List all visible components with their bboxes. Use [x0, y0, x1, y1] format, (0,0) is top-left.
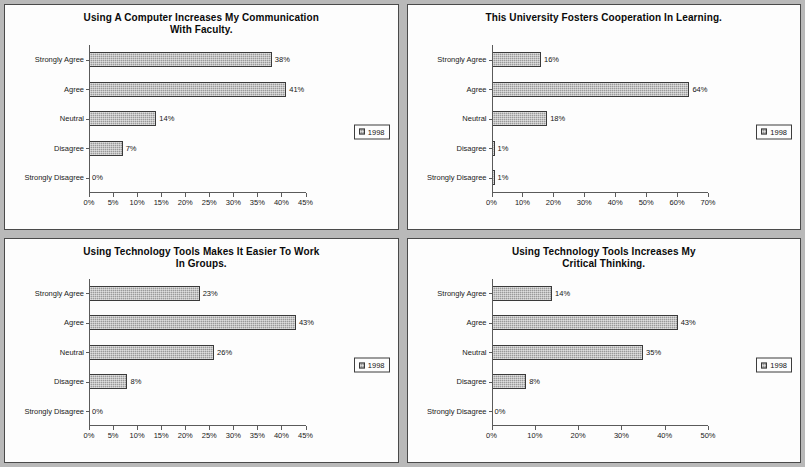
bar-track: 43%: [89, 308, 306, 338]
bar: [492, 82, 690, 97]
x-axis-tick-label: 10%: [515, 198, 530, 207]
x-axis-tick-label: 25%: [202, 431, 217, 440]
x-axis-tick: [708, 193, 709, 197]
bar-track: 0%: [89, 163, 306, 193]
y-axis-tick: [489, 382, 492, 383]
category-label: Disagree: [17, 144, 89, 153]
bar-track: 23%: [89, 279, 306, 309]
chart-legend: 1998: [354, 358, 390, 373]
bar: [89, 315, 296, 330]
x-axis-tick-label: 0%: [84, 431, 95, 440]
x-axis-tick: [185, 426, 186, 430]
y-axis-tick: [86, 352, 89, 353]
category-label: Disagree: [17, 377, 89, 386]
x-axis-tick: [281, 193, 282, 197]
category-label: Strongly Agree: [420, 55, 492, 64]
bar-rows: Strongly Agree23%Agree43%Neutral26%Disag…: [17, 279, 306, 427]
x-axis-tick: [257, 426, 258, 430]
bar-row: Agree64%: [420, 75, 709, 105]
bar: [492, 286, 553, 301]
x-axis-tick-label: 60%: [670, 198, 685, 207]
x-axis-tick-label: 10%: [130, 431, 145, 440]
category-label: Strongly Disagree: [420, 407, 492, 416]
chart-panel: Using Technology Tools Increases MyCriti…: [407, 238, 802, 464]
y-axis-tick: [489, 411, 492, 412]
bar-value-label: 14%: [555, 289, 570, 298]
bar-track: 7%: [89, 134, 306, 164]
y-axis: [492, 279, 493, 427]
bar-row: Strongly Disagree0%: [17, 397, 306, 427]
x-axis-ticks: 0%10%20%30%40%50%60%70%: [492, 193, 709, 201]
chart-title: Using Technology Tools Makes It Easier T…: [5, 239, 398, 270]
bar-value-label: 1%: [498, 144, 509, 153]
x-axis-tick-label: 40%: [657, 431, 672, 440]
x-axis-tick: [233, 426, 234, 430]
bar-value-label: 23%: [203, 289, 218, 298]
category-label: Agree: [420, 318, 492, 327]
y-axis: [492, 45, 493, 193]
bar: [492, 315, 678, 330]
x-axis-tick: [113, 193, 114, 197]
chart-legend: 1998: [756, 358, 792, 373]
chart-title-line1: Using Technology Tools Makes It Easier T…: [83, 246, 319, 257]
x-axis-tick: [89, 193, 90, 197]
x-axis-tick: [257, 193, 258, 197]
bar-row: Neutral35%: [420, 338, 709, 368]
bar-row: Strongly Disagree0%: [17, 163, 306, 193]
bar-track: 41%: [89, 75, 306, 105]
y-axis-tick: [86, 89, 89, 90]
category-label: Neutral: [17, 348, 89, 357]
x-axis-tick: [578, 426, 579, 430]
x-axis-tick: [535, 426, 536, 430]
bar-track: 8%: [492, 367, 709, 397]
bar-track: 64%: [492, 75, 709, 105]
x-axis-tick: [553, 193, 554, 197]
bar-value-label: 43%: [299, 318, 314, 327]
x-axis-tick: [646, 193, 647, 197]
plot-area: Strongly Agree16%Agree64%Neutral18%Disag…: [408, 41, 801, 223]
bar-track: 16%: [492, 45, 709, 75]
x-axis-tick-label: 45%: [298, 431, 313, 440]
x-axis-tick: [615, 193, 616, 197]
chart-title-line2: Critical Thinking.: [448, 258, 761, 270]
y-axis-tick: [86, 119, 89, 120]
bar: [89, 374, 127, 389]
bar-value-label: 0%: [495, 407, 506, 416]
category-label: Agree: [17, 318, 89, 327]
chart-title: Using Technology Tools Increases MyCriti…: [408, 239, 801, 270]
chart-title-line2: In Groups.: [45, 258, 358, 270]
bar-row: Strongly Disagree1%: [420, 163, 709, 193]
plot-area: Strongly Agree38%Agree41%Neutral14%Disag…: [5, 41, 398, 223]
category-label: Agree: [420, 85, 492, 94]
legend-swatch-icon: [761, 362, 767, 368]
bar-value-label: 41%: [289, 85, 304, 94]
bar-row: Agree43%: [17, 308, 306, 338]
y-axis-tick: [86, 411, 89, 412]
x-axis-tick-label: 50%: [700, 431, 715, 440]
x-axis-tick-label: 20%: [178, 431, 193, 440]
bar-track: 26%: [89, 338, 306, 368]
bar-value-label: 7%: [126, 144, 137, 153]
y-axis-tick: [489, 148, 492, 149]
y-axis: [89, 279, 90, 427]
bar-row: Neutral14%: [17, 104, 306, 134]
x-axis-tick-label: 5%: [108, 198, 119, 207]
plot-area: Strongly Agree23%Agree43%Neutral26%Disag…: [5, 275, 398, 457]
x-axis-tick-label: 35%: [250, 198, 265, 207]
bar-row: Neutral26%: [17, 338, 306, 368]
x-axis-tick-label: 25%: [202, 198, 217, 207]
bar-row: Neutral18%: [420, 104, 709, 134]
legend-swatch-icon: [359, 129, 365, 135]
bar-row: Disagree7%: [17, 134, 306, 164]
x-axis-ticks: 0%5%10%15%20%25%30%35%40%45%: [89, 193, 306, 201]
y-axis: [89, 45, 90, 193]
bar-value-label: 0%: [92, 173, 103, 182]
x-axis-tick-label: 5%: [108, 431, 119, 440]
x-axis-tick-label: 40%: [608, 198, 623, 207]
chart-title-line1: Using Technology Tools Increases My: [512, 246, 696, 257]
bar: [89, 82, 286, 97]
category-label: Neutral: [420, 114, 492, 123]
plot-area: Strongly Agree14%Agree43%Neutral35%Disag…: [408, 275, 801, 457]
x-axis-tick: [137, 426, 138, 430]
bar-value-label: 43%: [681, 318, 696, 327]
